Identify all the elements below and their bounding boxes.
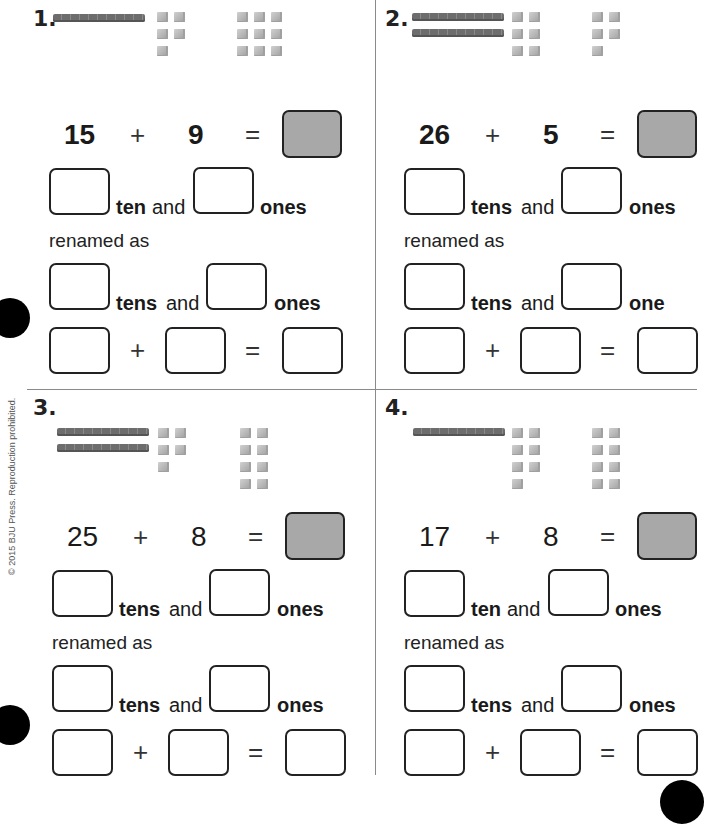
problem-number: 4. — [385, 395, 409, 420]
and-label: and — [507, 599, 540, 619]
final-sum-box[interactable] — [282, 327, 343, 374]
ones-cube-icon — [592, 29, 603, 39]
plus-sign: + — [130, 122, 145, 148]
sum-answer-box[interactable] — [282, 110, 342, 158]
ones-cube-icon — [609, 479, 620, 489]
renamed-and-label: and — [169, 695, 202, 715]
renamed-tens-input-box[interactable] — [52, 665, 113, 712]
final-plus-sign: + — [130, 337, 145, 363]
ones-cube-icon — [175, 428, 186, 438]
renamed-tens-input-box[interactable] — [404, 263, 465, 310]
ones-cube-icon — [254, 12, 265, 22]
renamed-ones-input-box[interactable] — [561, 263, 622, 310]
final-tens-box[interactable] — [404, 729, 465, 776]
ones-input-box[interactable] — [548, 569, 609, 616]
hole-punch-corner — [660, 780, 704, 824]
ones-cube-icon — [592, 479, 603, 489]
ones-cube-icon — [529, 12, 540, 22]
ones-cube-icon — [609, 445, 620, 455]
ones-cube-icon — [254, 29, 265, 39]
equals-sign: = — [248, 523, 263, 549]
ones-cube-icon — [158, 428, 169, 438]
tens-rod-icon — [53, 14, 145, 22]
ones-label: ones — [629, 197, 676, 217]
ones-cube-icon — [271, 29, 282, 39]
addend-1: 15 — [64, 121, 95, 149]
ones-cube-icon — [592, 445, 603, 455]
equals-sign: = — [600, 523, 615, 549]
ones-cube-icon — [240, 445, 251, 455]
final-equals-sign: = — [245, 337, 260, 363]
and-label: and — [152, 197, 185, 217]
sum-answer-box[interactable] — [637, 110, 697, 158]
tens-input-box[interactable] — [404, 570, 465, 617]
ones-cube-icon — [512, 462, 523, 472]
addend-1: 26 — [419, 121, 450, 149]
ones-cube-icon — [512, 445, 523, 455]
addend-1: 25 — [67, 523, 98, 551]
ones-cube-icon — [158, 462, 169, 472]
sum-answer-box[interactable] — [637, 512, 697, 560]
ones-label: ones — [277, 599, 324, 619]
renamed-ones-input-box[interactable] — [209, 665, 270, 712]
problem-number: 3. — [33, 395, 57, 420]
renamed-tens-input-box[interactable] — [404, 665, 465, 712]
tens-rod-icon — [57, 428, 149, 436]
renamed-as-label: renamed as — [404, 231, 504, 251]
renamed-tens-input-box[interactable] — [49, 263, 110, 310]
renamed-tens-label: tens — [471, 293, 512, 313]
final-equals-sign: = — [248, 739, 263, 765]
ones-label: ones — [260, 197, 307, 217]
vertical-divider — [375, 0, 376, 775]
ones-cube-icon — [512, 428, 523, 438]
ones-input-box[interactable] — [193, 167, 254, 214]
tens-input-box[interactable] — [49, 168, 110, 215]
renamed-ones-input-box[interactable] — [206, 263, 267, 310]
addend-1: 17 — [419, 523, 450, 551]
ones-cube-icon — [529, 29, 540, 39]
final-sum-box[interactable] — [637, 729, 698, 776]
renamed-ones-input-box[interactable] — [561, 665, 622, 712]
final-ones-box[interactable] — [520, 327, 581, 374]
ones-cube-icon — [237, 29, 248, 39]
renamed-tens-label: tens — [119, 695, 160, 715]
ones-cube-icon — [529, 462, 540, 472]
ones-input-box[interactable] — [209, 569, 270, 616]
ones-cube-icon — [609, 29, 620, 39]
final-tens-box[interactable] — [52, 729, 113, 776]
final-tens-box[interactable] — [404, 327, 465, 374]
plus-sign: + — [133, 524, 148, 550]
tens-input-box[interactable] — [404, 168, 465, 215]
final-sum-box[interactable] — [285, 729, 346, 776]
sum-answer-box[interactable] — [285, 512, 345, 560]
hole-punch-top — [0, 298, 30, 338]
final-ones-box[interactable] — [520, 729, 581, 776]
renamed-as-label: renamed as — [404, 633, 504, 653]
tens-input-box[interactable] — [52, 570, 113, 617]
final-ones-box[interactable] — [168, 729, 229, 776]
final-sum-box[interactable] — [637, 327, 698, 374]
ones-cube-icon — [257, 462, 268, 472]
ones-cube-icon — [240, 428, 251, 438]
renamed-tens-label: tens — [471, 695, 512, 715]
ones-cube-icon — [512, 12, 523, 22]
ones-cube-icon — [529, 445, 540, 455]
ones-cube-icon — [257, 428, 268, 438]
tens-rod-icon — [412, 13, 504, 21]
problem-number: 2. — [385, 6, 409, 31]
renamed-ones-label: one — [629, 293, 665, 313]
final-plus-sign: + — [133, 739, 148, 765]
ones-cube-icon — [609, 428, 620, 438]
ones-cube-icon — [529, 428, 540, 438]
ones-cube-icon — [257, 445, 268, 455]
ones-cube-icon — [175, 445, 186, 455]
tens-rod-icon — [57, 444, 149, 452]
final-tens-box[interactable] — [49, 327, 110, 374]
final-ones-box[interactable] — [165, 327, 226, 374]
renamed-as-label: renamed as — [49, 231, 149, 251]
final-equals-sign: = — [600, 739, 615, 765]
addend-2: 8 — [543, 523, 559, 551]
ones-cube-icon — [157, 12, 168, 22]
ones-input-box[interactable] — [561, 167, 622, 214]
ones-cube-icon — [271, 12, 282, 22]
